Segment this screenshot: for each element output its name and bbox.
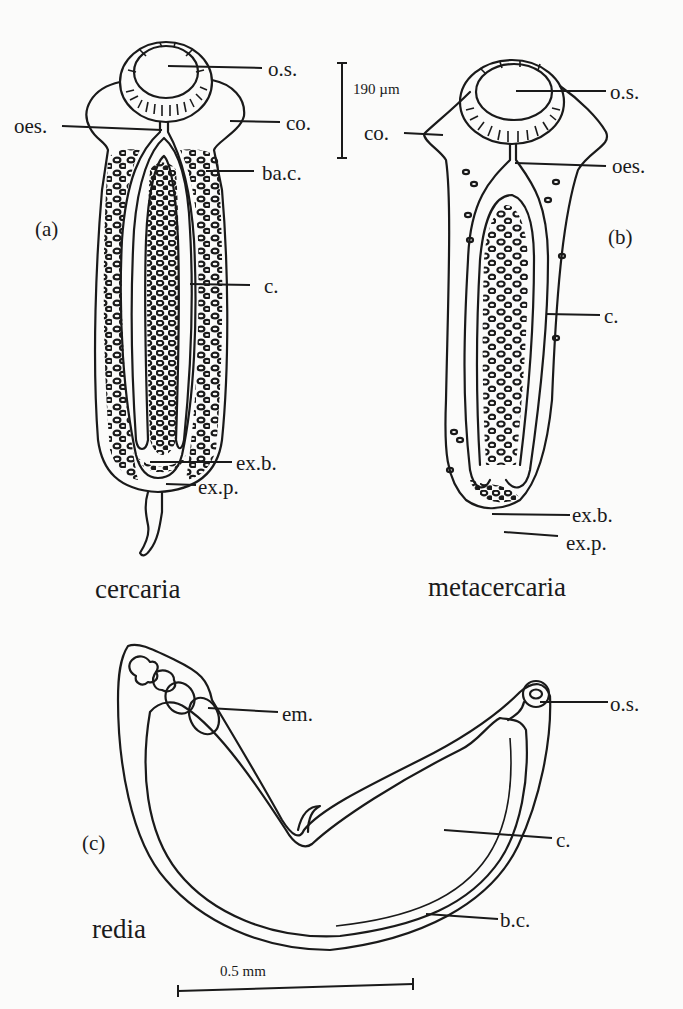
leader-a-co <box>230 121 280 122</box>
label-a-collar: co. <box>286 111 311 135</box>
label-a-bacterial-cells: ba.c. <box>262 161 302 185</box>
scale-bar-0-5mm: 0.5 mm <box>178 963 413 997</box>
label-c-body-cavity: b.c. <box>500 908 530 932</box>
leader-c-bc <box>426 914 498 919</box>
label-a-caecum: c. <box>264 274 279 298</box>
label-c-caecum: c. <box>556 828 571 852</box>
leader-a-oes <box>62 126 162 130</box>
leader-b-c <box>546 314 600 315</box>
label-c-embryos: em. <box>282 702 313 726</box>
cercaria-cell-mass <box>104 149 223 480</box>
metacercaria-oral-sucker <box>460 60 564 144</box>
redia-body-outer <box>118 645 550 950</box>
label-b-collar: co. <box>364 121 389 145</box>
cercaria-tail <box>140 492 162 555</box>
stage-name-cercaria: cercaria <box>95 574 180 604</box>
label-a-oral-sucker: o.s. <box>268 57 297 81</box>
panel-label-b: (b) <box>608 225 633 249</box>
redia-body-inner-2 <box>336 738 511 926</box>
label-c-oral-sucker: o.s. <box>610 692 639 716</box>
leader-b-exb <box>492 514 570 515</box>
panel-a-cercaria: o.s. oes. co. ba.c. c. ex.b. ex.p. (a) c… <box>14 42 400 604</box>
scale-bar-190um-label: 190 µm <box>353 81 400 97</box>
label-a-excretory-bladder: ex.b. <box>236 451 277 475</box>
stage-name-metacercaria: metacercaria <box>428 572 566 602</box>
label-a-excretory-pore: ex.p. <box>198 475 239 499</box>
cercaria-oral-sucker <box>120 42 212 122</box>
leader-a-c <box>190 284 250 285</box>
panel-b-metacercaria: o.s. co. oes. c. ex.b. ex.p. (b) metacer… <box>364 60 645 602</box>
label-b-oral-sucker: o.s. <box>610 80 639 104</box>
trematode-life-stages-diagram: o.s. oes. co. ba.c. c. ex.b. ex.p. (a) c… <box>0 0 683 1009</box>
label-b-excretory-bladder: ex.b. <box>572 503 613 527</box>
stage-name-redia: redia <box>92 914 146 944</box>
scale-bar-0-5mm-label: 0.5 mm <box>220 963 266 979</box>
label-b-oesophagus: oes. <box>612 154 645 178</box>
panel-label-c: (c) <box>82 831 105 855</box>
leader-b-exp <box>504 532 558 536</box>
panel-label-a: (a) <box>35 217 58 241</box>
leader-b-oes <box>515 163 606 166</box>
label-b-excretory-pore: ex.p. <box>566 531 607 555</box>
label-a-oesophagus: oes. <box>14 114 47 138</box>
label-b-caecum: c. <box>604 304 619 328</box>
leader-a-exp <box>166 484 196 485</box>
leader-a-os <box>168 66 262 68</box>
leader-b-co <box>404 133 443 135</box>
panel-c-redia: em. o.s. c. b.c. (c) redia 0.5 mm <box>82 645 639 997</box>
